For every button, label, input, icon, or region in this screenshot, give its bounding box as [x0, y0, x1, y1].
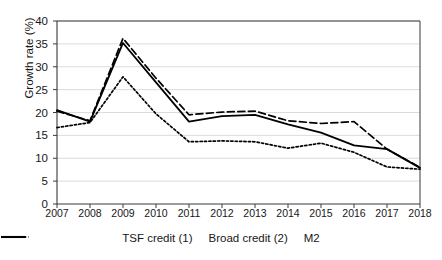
legend-swatch-dotted-icon: [0, 232, 30, 242]
legend-label: M2: [304, 232, 320, 244]
chart-legend: TSF credit (1)Broad credit (2)M2: [0, 232, 442, 244]
legend-label: TSF credit (1): [122, 232, 192, 244]
growth-rate-line-chart: Growth rate (%) 0510152025303540 2007200…: [0, 0, 442, 260]
legend-item-broad-credit-2[interactable]: Broad credit (2): [209, 232, 288, 244]
series-line-broad-credit-2: [57, 38, 420, 167]
series-line-tsf-credit-1: [57, 43, 420, 168]
legend-label: Broad credit (2): [209, 232, 288, 244]
legend-item-tsf-credit-1[interactable]: TSF credit (1): [122, 232, 192, 244]
legend-item-m2[interactable]: M2: [304, 232, 320, 244]
series-line-m2: [57, 77, 420, 169]
plot-area: [0, 0, 442, 260]
